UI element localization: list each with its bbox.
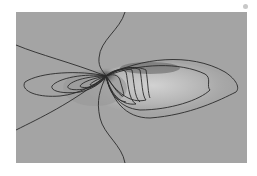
corner-mark xyxy=(243,4,248,9)
contour-plot xyxy=(0,0,257,176)
